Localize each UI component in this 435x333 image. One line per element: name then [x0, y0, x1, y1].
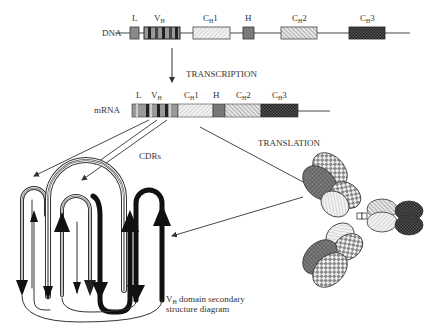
dna-seg-l: L	[132, 14, 138, 23]
translation-line	[200, 127, 305, 183]
structure-arrow	[172, 197, 303, 236]
dna-label: DNA	[102, 29, 122, 38]
dna-seg-h: H	[245, 14, 252, 23]
mrna-label: mRNA	[94, 106, 120, 115]
transcription-label: TRANSCRIPTION	[186, 70, 257, 79]
caption: VH domain secondary structure diagram	[166, 295, 245, 314]
antibody-structure	[296, 146, 423, 294]
mrna-seg-h: H	[213, 91, 220, 100]
mrna-track	[132, 104, 330, 117]
dna-vh-exon	[144, 27, 180, 39]
dna-seg-ch2: CH2	[292, 14, 307, 24]
mrna-seg-vh: VH	[151, 91, 162, 101]
cdrs-label: CDRs	[139, 152, 161, 161]
dna-seg-ch1: CH1	[203, 14, 218, 24]
mrna-seg-ch2: CH2	[236, 91, 251, 101]
vh-secondary-structure	[16, 160, 171, 322]
dna-gene-track	[115, 27, 410, 39]
diagram-canvas	[0, 0, 435, 333]
mrna-seg-l: L	[136, 91, 142, 100]
mrna-seg-ch1: CH1	[184, 91, 199, 101]
dna-seg-vh: VH	[154, 14, 165, 24]
dna-seg-ch3: CH3	[360, 14, 375, 24]
mrna-seg-ch3: CH3	[272, 91, 287, 101]
cdr-arrows	[34, 120, 167, 180]
translation-label: TRANSLATION	[258, 139, 320, 148]
